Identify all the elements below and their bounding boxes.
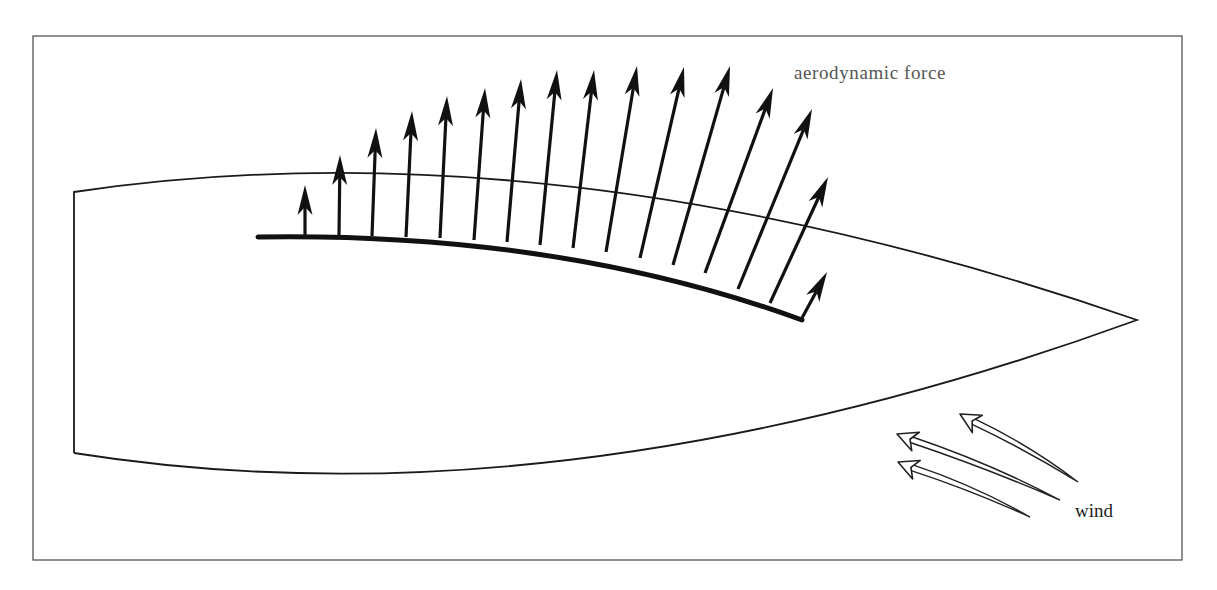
force-arrow [438, 96, 453, 238]
force-arrow-shaft [406, 133, 411, 237]
arrowhead-icon [809, 177, 828, 207]
force-arrow [298, 185, 313, 236]
force-arrow-shaft [474, 110, 483, 240]
sail-foot-curve [258, 237, 802, 320]
force-arrow [367, 128, 382, 236]
force-arrow [507, 79, 526, 242]
force-arrows-group [298, 66, 829, 318]
force-arrow [540, 70, 562, 245]
hull-outline [74, 173, 1137, 474]
force-arrow [474, 88, 490, 240]
diagram-svg [0, 0, 1217, 590]
wind-arrow-shaft [971, 418, 1078, 482]
aerodynamic-force-label: aerodynamic force [794, 62, 946, 84]
force-arrow-shaft [640, 88, 679, 258]
force-arrow-shaft [540, 92, 555, 245]
force-arrow-shaft [440, 118, 446, 238]
force-arrow-shaft [573, 92, 591, 248]
force-arrow-shaft [507, 101, 519, 242]
wind-arrow-shaft [909, 436, 1060, 500]
diagram-canvas: aerodynamic force wind [0, 0, 1217, 590]
figure-frame [33, 36, 1182, 560]
wind-arrow-shaft [910, 465, 1030, 517]
wind-arrow [898, 460, 1030, 517]
force-arrow-shaft [339, 177, 340, 236]
wind-label: wind [1075, 500, 1113, 522]
force-arrow [640, 67, 685, 258]
force-arrow [573, 70, 598, 248]
force-arrow [332, 155, 347, 236]
wind-arrow [960, 414, 1078, 482]
force-arrow [606, 66, 639, 252]
force-arrow-shaft [802, 291, 816, 318]
wind-arrows-group [897, 414, 1078, 517]
force-arrow [738, 109, 812, 289]
force-arrow-shaft [372, 150, 375, 236]
force-arrow-shaft [606, 88, 633, 252]
arrowhead-icon [806, 272, 827, 302]
force-arrow-shaft [770, 197, 819, 303]
force-arrow [673, 66, 730, 265]
force-arrow [802, 272, 827, 318]
